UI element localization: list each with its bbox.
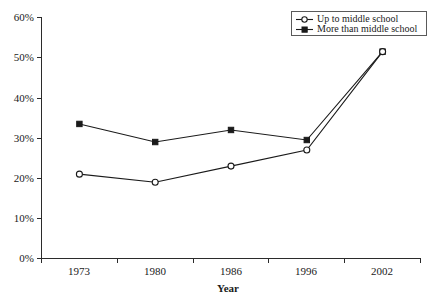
x-tick-label: 1996: [295, 265, 318, 277]
y-tick-label: 30%: [14, 132, 34, 144]
data-point-open-circle: [152, 179, 158, 185]
y-axis-ticks: [37, 18, 41, 259]
x-tick-label: 1980: [144, 265, 167, 277]
series-up-to-middle-school: [76, 49, 385, 186]
series-markers-more-than-middle-school: [77, 49, 386, 145]
data-point-open-circle: [304, 147, 310, 153]
y-tick-label: 10%: [14, 212, 34, 224]
legend-label: More than middle school: [317, 23, 417, 34]
series-markers-up-to-middle-school: [76, 49, 385, 186]
filled-square-icon: [302, 27, 307, 32]
data-point-open-circle: [380, 49, 386, 55]
data-point-filled-square: [153, 139, 158, 144]
x-axis-title: Year: [217, 282, 239, 294]
x-tick-label: 1973: [68, 265, 91, 277]
data-point-open-circle: [228, 163, 234, 169]
data-point-filled-square: [228, 127, 233, 132]
y-tick-label: 60%: [14, 11, 34, 23]
open-circle-icon: [302, 17, 307, 22]
y-tick-label: 40%: [14, 92, 34, 104]
series-more-than-middle-school: [77, 49, 386, 145]
y-tick-label: 0%: [19, 252, 34, 264]
line-chart-figure: 60% 50% 40% 30% 20% 10% 0% 1973 1980 198…: [0, 0, 432, 307]
x-tick-label: 2002: [371, 265, 393, 277]
y-tick-label: 50%: [14, 51, 34, 63]
chart-legend: Up to middle school More than middle sch…: [292, 12, 427, 36]
data-point-open-circle: [76, 171, 82, 177]
x-tick-label: 1986: [220, 265, 243, 277]
y-tick-label: 20%: [14, 172, 34, 184]
chart-canvas: 60% 50% 40% 30% 20% 10% 0% 1973 1980 198…: [0, 0, 432, 307]
data-point-filled-square: [304, 137, 309, 142]
x-axis-tick-labels: 1973 1980 1986 1996 2002: [68, 265, 393, 277]
data-point-filled-square: [77, 121, 82, 126]
y-axis-tick-labels: 60% 50% 40% 30% 20% 10% 0%: [14, 11, 34, 264]
